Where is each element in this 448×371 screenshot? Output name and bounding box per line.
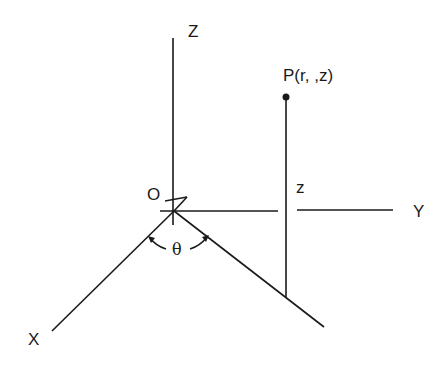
y-axis-label: Y: [413, 203, 424, 220]
point-p-dot: [283, 94, 290, 101]
r-projection-line: [174, 211, 324, 327]
point-p-label: P(r, ,z): [283, 67, 333, 84]
diagram-canvas: Z P(r, ,z) z O Y X θ: [0, 0, 448, 371]
height-z-label: z: [296, 179, 305, 196]
x-axis-line: [52, 211, 174, 331]
diagram-lines: [0, 0, 448, 371]
theta-label: θ: [172, 242, 182, 258]
x-axis-label: X: [28, 331, 39, 348]
origin-label: O: [147, 186, 160, 203]
z-axis-label: Z: [188, 23, 198, 40]
